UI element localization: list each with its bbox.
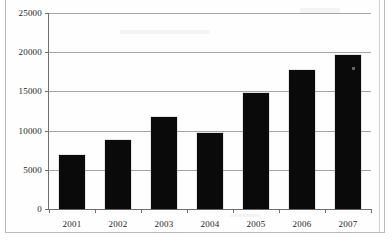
bar-2002[interactable]	[105, 140, 131, 209]
xtick-label-2007: 2007	[325, 219, 371, 229]
bar-2006[interactable]	[289, 70, 315, 209]
bar-chart-figure: 25000 20000 15000 10000 5000 0	[0, 0, 392, 250]
ytick-label-5000: 5000	[23, 165, 42, 175]
xtick-mark-1	[95, 209, 96, 213]
xtick-mark-7	[371, 209, 372, 213]
xtick-mark-5	[279, 209, 280, 213]
gridline-0: 0	[49, 209, 371, 210]
xtick-mark-2	[141, 209, 142, 213]
bar-slot-2004	[187, 13, 233, 209]
scan-artifact	[352, 67, 355, 70]
plot-area: 25000 20000 15000 10000 5000 0	[48, 13, 371, 210]
xtick-label-2002: 2002	[95, 219, 141, 229]
ytick-label-0: 0	[37, 204, 42, 214]
bar-slot-2006	[279, 13, 325, 209]
scan-smudge	[230, 214, 260, 217]
ytick-label-10000: 10000	[19, 126, 43, 136]
xtick-label-2003: 2003	[141, 219, 187, 229]
bar-2001[interactable]	[59, 155, 85, 209]
xtick-label-2004: 2004	[187, 219, 233, 229]
bar-2007[interactable]	[335, 55, 361, 209]
xtick-label-2006: 2006	[279, 219, 325, 229]
bar-slot-2001	[49, 13, 95, 209]
ytick-label-25000: 25000	[19, 8, 43, 18]
ytick-label-15000: 15000	[19, 86, 43, 96]
xtick-mark-0	[49, 209, 50, 213]
bar-2003[interactable]	[151, 117, 177, 210]
bar-2005[interactable]	[243, 93, 269, 209]
bars-layer	[49, 13, 371, 209]
xtick-label-2001: 2001	[49, 219, 95, 229]
bar-slot-2002	[95, 13, 141, 209]
bar-slot-2005	[233, 13, 279, 209]
bar-2004[interactable]	[197, 133, 223, 209]
xtick-label-2005: 2005	[233, 219, 279, 229]
bar-slot-2007	[325, 13, 371, 209]
xtick-mark-6	[325, 209, 326, 213]
ytick-label-20000: 20000	[19, 47, 43, 57]
bar-slot-2003	[141, 13, 187, 209]
xtick-mark-3	[187, 209, 188, 213]
xtick-mark-4	[233, 209, 234, 213]
